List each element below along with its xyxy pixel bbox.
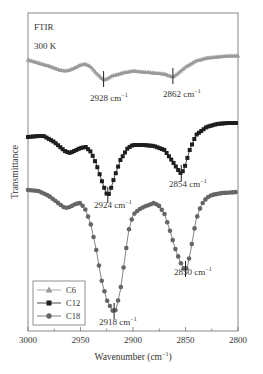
square-marker-icon bbox=[91, 154, 95, 158]
circle-marker-icon bbox=[192, 226, 197, 231]
circle-marker-icon bbox=[200, 201, 205, 206]
square-marker-icon bbox=[183, 164, 187, 168]
x-tick-3000: 3000 bbox=[19, 335, 38, 345]
square-marker-icon bbox=[188, 148, 192, 152]
square-marker-icon bbox=[118, 158, 122, 162]
circle-marker-icon bbox=[165, 220, 170, 225]
square-marker-icon bbox=[123, 150, 127, 154]
circle-marker-icon bbox=[190, 242, 195, 247]
circle-marker-icon bbox=[179, 261, 184, 266]
temperature-label: 300 K bbox=[34, 41, 57, 51]
circle-marker-icon bbox=[162, 212, 167, 217]
circle-marker-icon bbox=[105, 299, 110, 304]
x-axis-labels: 3000 2950 2900 2850 2800 bbox=[19, 335, 248, 345]
x-tick-2850: 2850 bbox=[177, 335, 196, 345]
x-tick-2800: 2800 bbox=[229, 335, 248, 345]
circle-marker-icon bbox=[129, 217, 134, 222]
legend: C6 C12 C18 bbox=[33, 281, 85, 325]
x-axis-ticks bbox=[28, 327, 238, 331]
square-marker-icon bbox=[121, 154, 125, 158]
square-marker-icon bbox=[98, 172, 102, 176]
square-marker-icon bbox=[114, 171, 118, 175]
annotation-2928: 2928 cm−1 bbox=[90, 92, 128, 103]
annotation-2924: 2924 cm−1 bbox=[94, 199, 132, 210]
circle-marker-icon bbox=[121, 265, 126, 270]
circle-marker-icon bbox=[198, 206, 203, 211]
square-marker-icon bbox=[47, 301, 52, 306]
peak-markers bbox=[104, 68, 186, 319]
square-marker-icon bbox=[116, 165, 120, 169]
square-marker-icon bbox=[192, 137, 196, 141]
circle-marker-icon bbox=[124, 246, 129, 251]
legend-label-c12: C12 bbox=[66, 298, 80, 308]
circle-marker-icon bbox=[88, 222, 93, 227]
y-axis-title: Transmittance bbox=[10, 145, 20, 199]
circle-marker-icon bbox=[157, 204, 162, 209]
circle-marker-icon bbox=[102, 289, 107, 294]
circle-marker-icon bbox=[173, 247, 178, 252]
square-marker-icon bbox=[93, 159, 97, 163]
square-marker-icon bbox=[185, 156, 189, 160]
annotation-2850: 2850 cm−1 bbox=[174, 266, 212, 277]
series-c12 bbox=[26, 121, 238, 196]
chart-title: FTIR bbox=[34, 22, 54, 32]
circle-marker-icon bbox=[91, 235, 96, 240]
circle-marker-icon bbox=[187, 256, 192, 261]
ftir-chart: FTIR 300 K 2928 cm−1 2862 cm−1 2924 cm−1… bbox=[0, 0, 263, 374]
circle-marker-icon bbox=[86, 214, 91, 219]
circle-marker-icon bbox=[168, 228, 173, 233]
circle-marker-icon bbox=[119, 285, 124, 290]
x-axis-title: Wavenumber (cm−1) bbox=[94, 351, 171, 363]
circle-marker-icon bbox=[94, 248, 99, 253]
x-tick-2900: 2900 bbox=[124, 335, 143, 345]
series-c6 bbox=[26, 54, 241, 82]
x-tick-2950: 2950 bbox=[72, 335, 91, 345]
circle-marker-icon bbox=[80, 204, 85, 209]
circle-marker-icon bbox=[83, 207, 88, 212]
series-layer bbox=[26, 54, 241, 313]
square-marker-icon bbox=[109, 186, 113, 190]
circle-marker-icon bbox=[195, 214, 200, 219]
circle-marker-icon bbox=[99, 279, 104, 284]
circle-marker-icon bbox=[46, 313, 51, 318]
annotation-2918: 2918 cm−1 bbox=[99, 316, 137, 327]
square-marker-icon bbox=[111, 178, 115, 182]
annotation-2854: 2854 cm−1 bbox=[169, 178, 207, 189]
circle-marker-icon bbox=[108, 304, 113, 309]
circle-marker-icon bbox=[127, 227, 132, 232]
circle-marker-icon bbox=[233, 190, 238, 195]
legend-label-c6: C6 bbox=[66, 285, 76, 295]
square-marker-icon bbox=[190, 143, 194, 147]
legend-label-c18: C18 bbox=[66, 311, 80, 321]
square-marker-icon bbox=[102, 186, 106, 190]
circle-marker-icon bbox=[159, 208, 164, 213]
square-marker-icon bbox=[174, 164, 178, 168]
circle-marker-icon bbox=[97, 263, 102, 268]
circle-marker-icon bbox=[170, 238, 175, 243]
square-marker-icon bbox=[88, 149, 92, 153]
circle-marker-icon bbox=[176, 254, 181, 259]
square-marker-icon bbox=[95, 165, 99, 169]
annotation-2862: 2862 cm−1 bbox=[163, 88, 201, 99]
circle-marker-icon bbox=[116, 298, 121, 303]
square-marker-icon bbox=[172, 161, 176, 165]
square-marker-icon bbox=[100, 179, 104, 183]
square-marker-icon bbox=[234, 121, 238, 125]
